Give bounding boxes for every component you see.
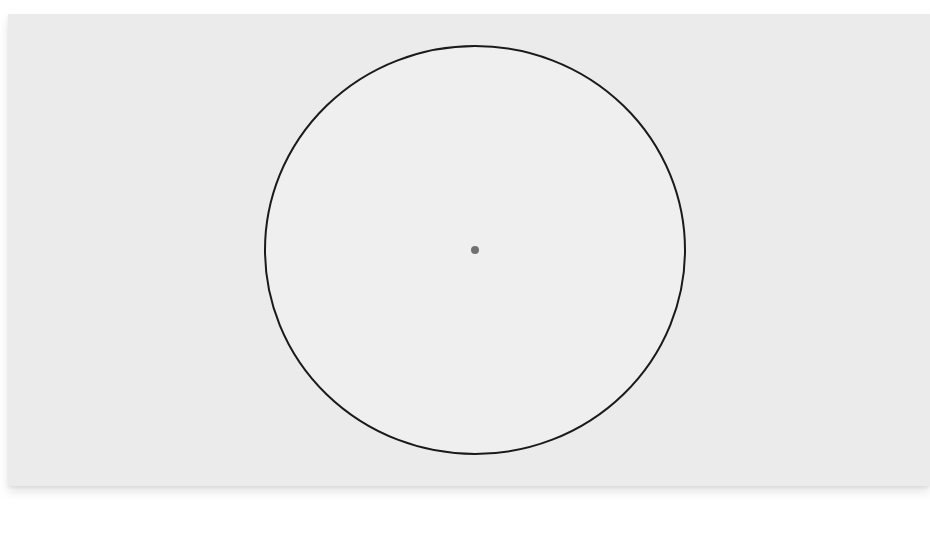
page — [0, 0, 930, 538]
circle-diagram — [0, 0, 930, 538]
center-point — [471, 246, 479, 254]
